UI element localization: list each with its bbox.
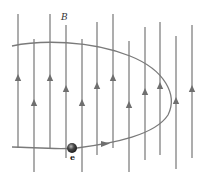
trajectory-direction-arrow-icon bbox=[101, 141, 110, 147]
field-direction-arrow-icon bbox=[47, 74, 53, 81]
field-direction-arrow-icon bbox=[110, 74, 116, 81]
field-direction-arrow-icon bbox=[173, 97, 179, 104]
field-direction-arrow-icon bbox=[31, 99, 37, 106]
diagram-svg: e B bbox=[0, 0, 207, 182]
field-direction-arrow-icon bbox=[142, 88, 148, 95]
electron-label: e bbox=[70, 152, 75, 162]
field-direction-arrow-icon bbox=[63, 85, 69, 92]
electron-trajectory bbox=[12, 42, 171, 148]
field-label-b: B bbox=[60, 12, 68, 22]
magnetic-field-diagram: e B bbox=[0, 0, 207, 182]
field-direction-arrow-icon bbox=[15, 74, 21, 81]
field-direction-arrow-icon bbox=[79, 99, 85, 106]
field-direction-arrow-icon bbox=[94, 82, 100, 89]
field-direction-arrow-icon bbox=[189, 85, 195, 92]
field-direction-arrow-icon bbox=[126, 101, 132, 108]
field-direction-arrow-icon bbox=[157, 82, 163, 89]
